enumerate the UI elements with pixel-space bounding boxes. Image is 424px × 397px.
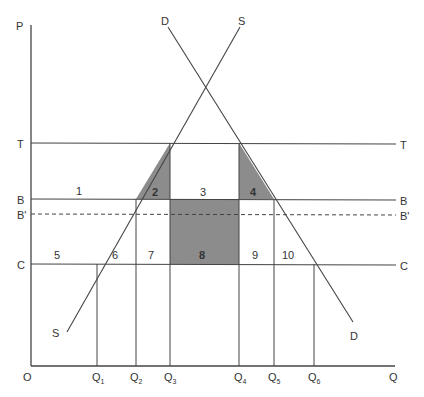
price-line-t [31,143,396,144]
price-line-b-prime [31,214,396,215]
label-b-prime-right: B' [400,210,409,222]
area-label-10: 10 [282,249,294,261]
q4-label: Q4 [234,371,247,385]
demand-curve [168,27,353,322]
supply-label-top: S [238,15,245,27]
supply-demand-diagram: P Q O T T B B B' B' C C D S S D Q1 Q2 Q3… [0,0,424,397]
label-t-left: T [17,138,24,150]
supply-curve [67,27,240,332]
area-label-9: 9 [252,249,258,261]
area-label-5: 5 [54,249,60,261]
demand-label-top: D [161,15,169,27]
area-label-8: 8 [199,249,205,261]
label-b-left: B [17,194,24,206]
area-label-6: 6 [112,249,118,261]
demand-label-bottom: D [350,330,358,342]
area-label-3: 3 [200,186,206,198]
label-c-right: C [400,260,408,272]
q3-label: Q3 [164,371,177,385]
area-label-4: 4 [250,186,257,198]
label-t-right: T [400,139,407,151]
origin-label: O [23,371,32,383]
price-line-b [31,199,396,200]
q5-label: Q5 [268,371,281,385]
area-label-7: 7 [148,249,154,261]
label-c-left: C [17,259,25,271]
area-label-1: 1 [76,185,82,197]
label-b-right: B [400,195,407,207]
q2-label: Q2 [130,371,143,385]
price-axis-label: P [16,20,23,32]
area-label-2: 2 [152,186,158,198]
supply-label-bottom: S [52,327,59,339]
q6-label: Q6 [308,371,321,385]
q1-label: Q1 [92,371,105,385]
shaded-area-4 [239,143,274,199]
label-b-prime-left: B' [17,209,26,221]
price-line-c [31,264,396,265]
quantity-axis-label: Q [389,371,398,383]
